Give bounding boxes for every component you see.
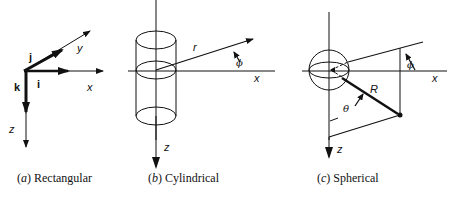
label-j: j <box>28 51 32 63</box>
label-theta: θ <box>343 103 349 114</box>
label-z-axis: z <box>163 141 170 153</box>
label-R: R <box>370 83 378 95</box>
caption-cylindrical: (b) Cylindrical <box>148 171 220 185</box>
theta-arc-tick <box>330 118 338 121</box>
panel-cylindrical: r ϕ x z (b) Cylindrical <box>128 0 275 185</box>
label-r: r <box>193 41 198 53</box>
label-z-axis: z <box>8 123 15 135</box>
label-i: i <box>37 78 40 90</box>
caption-spherical: (c) Spherical <box>317 171 379 185</box>
caption-rectangular: (a) Rectangular <box>17 171 92 185</box>
panel-spherical: R θ ϕ x z (c) Spherical <box>302 12 447 185</box>
label-k: k <box>14 81 21 93</box>
origin-arrowhead <box>330 67 335 73</box>
label-x-axis: x <box>86 81 93 93</box>
label-x-axis: x <box>253 72 260 84</box>
label-y-axis: y <box>76 42 84 54</box>
coordinate-systems-figure: j i k x y z (a) Rectangular r ϕ x z (b) … <box>0 0 457 197</box>
label-phi: ϕ <box>407 59 414 70</box>
panel-rectangular: j i k x y z (a) Rectangular <box>8 31 103 185</box>
label-x-axis: x <box>431 72 438 84</box>
label-z-axis: z <box>336 143 343 155</box>
theta-arrow <box>355 94 363 106</box>
base-line <box>329 115 400 137</box>
label-phi: ϕ <box>236 57 243 68</box>
